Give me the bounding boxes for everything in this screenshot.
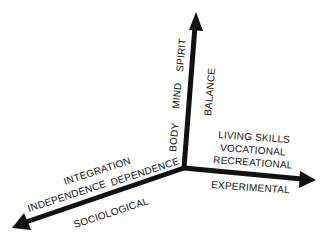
label-mind: MIND <box>170 82 183 109</box>
three-axis-diagram: BALANCE BODY MIND SPIRIT LIVING SKILLS V… <box>0 0 329 241</box>
label-body: BODY <box>167 122 181 152</box>
vertical-axis-arrow <box>184 12 203 168</box>
label-spirit: SPIRIT <box>174 38 188 72</box>
label-experimental: EXPERIMENTAL <box>211 179 291 195</box>
label-balance: BALANCE <box>202 67 217 116</box>
